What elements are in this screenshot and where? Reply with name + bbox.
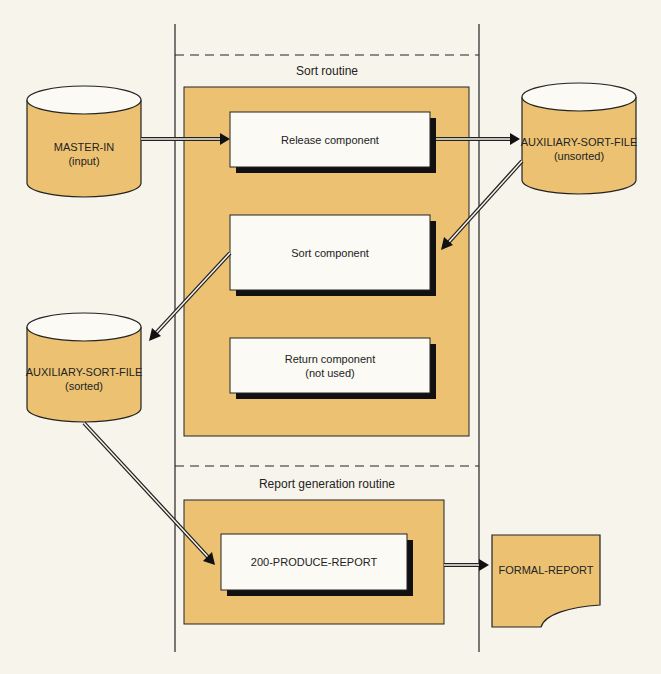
aux-unsorted-title: AUXILIARY-SORT-FILE: [515, 135, 643, 149]
aux-sorted-subtitle: (sorted): [20, 379, 148, 393]
release-component-label: Release component: [230, 133, 430, 147]
arrow-produce-to-formal-report: [444, 559, 489, 571]
aux-sorted-title: AUXILIARY-SORT-FILE: [20, 365, 148, 379]
produce-report-label: 200-PRODUCE-REPORT: [221, 555, 407, 569]
return-component-label: Return component (not used): [230, 352, 430, 380]
aux-unsorted-label: AUXILIARY-SORT-FILE (unsorted): [515, 135, 643, 163]
sort-routine-title: Sort routine: [175, 64, 479, 78]
master-in-label: MASTER-IN (input): [27, 140, 141, 168]
aux-unsorted-subtitle: (unsorted): [515, 149, 643, 163]
master-in-subtitle: (input): [27, 154, 141, 168]
sort-component-label: Sort component: [230, 246, 430, 260]
master-in-title: MASTER-IN: [27, 140, 141, 154]
report-routine-title: Report generation routine: [175, 477, 479, 491]
formal-report-label: FORMAL-REPORT: [492, 563, 600, 577]
return-component-subtitle: (not used): [230, 366, 430, 380]
aux-sorted-label: AUXILIARY-SORT-FILE (sorted): [20, 365, 148, 393]
return-component-title: Return component: [230, 352, 430, 366]
arrow-aux-sorted-to-produce: [84, 423, 215, 565]
formal-report-document: [492, 535, 600, 627]
